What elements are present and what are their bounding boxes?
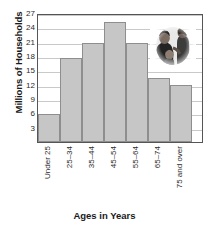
- x-tick-slot: 65–74: [147, 146, 169, 204]
- bar: [170, 85, 192, 142]
- y-tick-label: 15: [14, 67, 35, 75]
- family-photo-image: [150, 21, 196, 69]
- x-tick-label: 75 and over: [176, 146, 184, 188]
- bar: [104, 22, 126, 142]
- plot-area: [37, 14, 203, 143]
- x-tick-label: 25–34: [66, 146, 74, 168]
- y-tick-label: 12: [14, 82, 35, 90]
- x-tick-slot: 25–34: [59, 146, 81, 204]
- x-tick-label: 55–64: [132, 146, 140, 168]
- y-tick-label: 6: [14, 110, 35, 118]
- y-tick-label: 9: [14, 96, 35, 104]
- x-tick-slot: 75 and over: [169, 146, 191, 204]
- bar: [60, 58, 82, 142]
- x-tick-slot: 45–54: [103, 146, 125, 204]
- x-tick-label: 35–44: [88, 146, 96, 168]
- x-tick-label: 45–54: [110, 146, 118, 168]
- bar-chart-figure: Millions of Households 369121518212427: [0, 0, 209, 232]
- y-tick-label: 18: [14, 53, 35, 61]
- x-axis-tick-labels: Under 2525–3435–4445–5455–6465–7475 and …: [37, 146, 203, 204]
- x-axis-title: Ages in Years: [0, 210, 209, 221]
- y-tick-label: 24: [14, 24, 35, 32]
- bar: [38, 114, 60, 142]
- bar: [126, 43, 148, 142]
- y-axis-tick-labels: 369121518212427: [14, 14, 35, 143]
- x-tick-slot: 55–64: [125, 146, 147, 204]
- y-tick-label: 3: [14, 125, 35, 133]
- x-tick-label: 65–74: [154, 146, 162, 168]
- bar: [148, 78, 170, 142]
- x-tick-slot: Under 25: [37, 146, 59, 204]
- y-tick-label: 27: [14, 10, 35, 18]
- x-tick-label: Under 25: [44, 146, 52, 179]
- bar: [82, 43, 104, 142]
- x-tick-slot: 35–44: [81, 146, 103, 204]
- y-tick-label: 21: [14, 39, 35, 47]
